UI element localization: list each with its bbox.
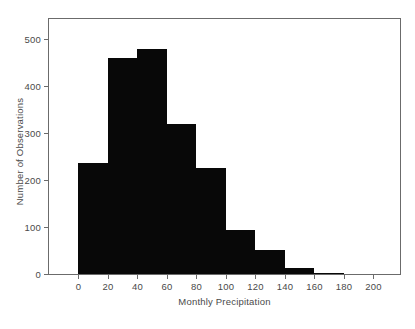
histogram-bar bbox=[314, 273, 343, 274]
histogram-bar bbox=[285, 268, 314, 274]
x-axis-tick-label: 100 bbox=[218, 281, 234, 292]
histogram-bar bbox=[226, 230, 255, 274]
y-axis-tick bbox=[44, 133, 49, 134]
x-axis-tick bbox=[373, 274, 374, 279]
x-axis-tick-label: 40 bbox=[132, 281, 143, 292]
x-axis-tick bbox=[285, 274, 286, 279]
histogram-bar bbox=[137, 49, 166, 274]
y-axis-tick-label: 200 bbox=[25, 174, 41, 185]
y-axis-title: Number of Observations bbox=[14, 67, 25, 237]
histogram-bar bbox=[78, 163, 107, 274]
y-axis-tick bbox=[44, 86, 49, 87]
x-axis-tick bbox=[196, 274, 197, 279]
y-axis-tick-label: 300 bbox=[25, 127, 41, 138]
histogram-bar bbox=[167, 124, 196, 274]
x-axis-tick-label: 140 bbox=[277, 281, 293, 292]
y-axis-tick bbox=[44, 227, 49, 228]
y-axis-tick-label: 400 bbox=[25, 80, 41, 91]
histogram-bar bbox=[196, 168, 225, 274]
x-axis-tick bbox=[167, 274, 168, 279]
x-axis-tick bbox=[78, 274, 79, 279]
histogram-bar bbox=[255, 250, 284, 274]
x-axis-tick-label: 80 bbox=[191, 281, 202, 292]
x-axis-tick-label: 180 bbox=[336, 281, 352, 292]
histogram-figure: 0100200300400500020406080100120140160180… bbox=[0, 0, 415, 329]
x-axis-tick-label: 120 bbox=[247, 281, 263, 292]
x-axis-tick bbox=[314, 274, 315, 279]
y-axis-tick bbox=[44, 274, 49, 275]
y-axis-tick bbox=[44, 39, 49, 40]
x-axis-tick-label: 0 bbox=[76, 281, 81, 292]
plot-frame: 0100200300400500020406080100120140160180… bbox=[48, 18, 401, 275]
x-axis-tick bbox=[344, 274, 345, 279]
x-axis-tick-label: 200 bbox=[365, 281, 381, 292]
x-axis-tick bbox=[108, 274, 109, 279]
x-axis-tick-label: 60 bbox=[161, 281, 172, 292]
plot-area bbox=[49, 19, 400, 274]
x-axis-tick bbox=[255, 274, 256, 279]
x-axis-tick bbox=[137, 274, 138, 279]
x-axis-title: Monthly Precipitation bbox=[48, 296, 401, 307]
histogram-bar bbox=[108, 58, 137, 274]
y-axis-tick bbox=[44, 180, 49, 181]
y-axis-tick-label: 100 bbox=[25, 221, 41, 232]
x-axis-tick-label: 20 bbox=[103, 281, 114, 292]
x-axis-tick-label: 160 bbox=[306, 281, 322, 292]
y-axis-tick-label: 0 bbox=[36, 269, 41, 280]
x-axis-tick bbox=[226, 274, 227, 279]
y-axis-tick-label: 500 bbox=[25, 33, 41, 44]
